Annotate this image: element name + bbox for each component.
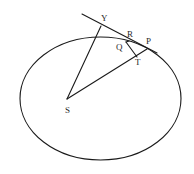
line-QR (126, 41, 129, 42)
line-QT (126, 42, 137, 57)
label-S: S (65, 105, 70, 115)
label-P: P (146, 36, 151, 46)
label-Y: Y (101, 13, 108, 23)
orbit-ellipse (20, 37, 181, 160)
label-T: T (135, 57, 141, 67)
orbit-diagram: Y R Q P T S (0, 0, 194, 174)
label-Q: Q (116, 42, 123, 52)
label-R: R (127, 29, 133, 39)
